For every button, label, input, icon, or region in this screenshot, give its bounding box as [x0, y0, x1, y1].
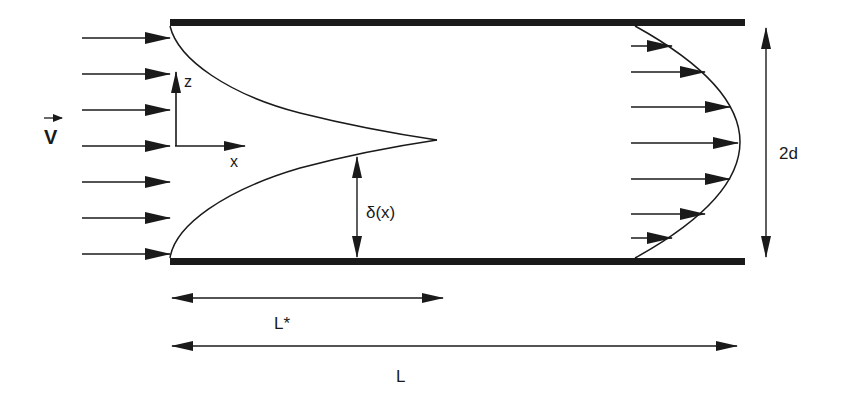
top-plate: [170, 19, 745, 26]
coordinate-axes: z x: [175, 72, 245, 170]
boundary-layer-bottom: [170, 140, 437, 258]
boundary-layer-thickness: δ(x): [357, 157, 395, 257]
velocity-label: V: [44, 118, 62, 148]
flow-diagram: V z x δ(x) 2d L*: [0, 0, 842, 399]
bottom-plate: [170, 258, 745, 265]
gap-label: 2d: [779, 144, 798, 163]
boundary-layer-top: [170, 26, 437, 140]
delta-label: δ(x): [366, 203, 395, 222]
total-length-label: L: [396, 367, 405, 386]
z-axis-label: z: [184, 73, 192, 90]
entrance-length-dimension: L*: [172, 298, 443, 333]
diagram-canvas: V z x δ(x) 2d L*: [0, 0, 842, 399]
gap-dimension: 2d: [766, 28, 798, 257]
total-length-dimension: L: [172, 346, 737, 386]
inlet-arrows: [82, 38, 170, 254]
outlet-arrows: [631, 46, 738, 238]
x-axis-label: x: [230, 153, 238, 170]
entrance-length-label: L*: [274, 314, 290, 333]
parabolic-profile: [635, 26, 740, 258]
velocity-symbol: V: [44, 126, 58, 148]
